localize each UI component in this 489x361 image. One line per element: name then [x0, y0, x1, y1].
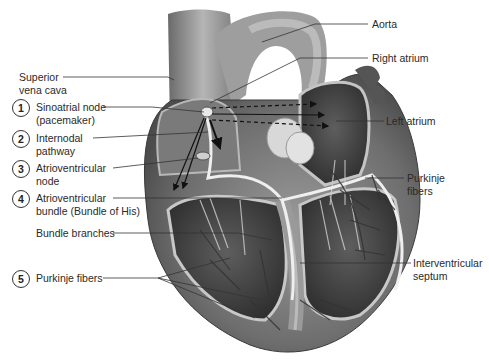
- heart-conduction-diagram: Superior vena cava 1 Sinoatrial node (pa…: [0, 0, 489, 361]
- label-line1: Atrioventricular: [36, 162, 106, 174]
- number-badge: 3: [12, 160, 30, 178]
- label-line1: Left atrium: [386, 115, 436, 127]
- label-line1: Superior: [19, 71, 59, 83]
- label-line1: Purkinje: [407, 172, 445, 184]
- number-badge: 4: [12, 190, 30, 208]
- label-line2: vena cava: [19, 84, 67, 96]
- label-line1: Interventricular: [413, 257, 482, 269]
- label-line2: (pacemaker): [36, 114, 95, 126]
- label-line1: Bundle branches: [36, 227, 115, 239]
- label-line2: fibers: [407, 185, 433, 197]
- label-line1: Purkinje fibers: [36, 272, 103, 284]
- label-line2: node: [36, 175, 59, 187]
- label-line1: Sinoatrial node: [36, 101, 106, 113]
- label-line2: pathway: [36, 145, 75, 157]
- number-badge: 2: [12, 130, 30, 148]
- number-badge: 1: [12, 99, 30, 117]
- atrioventricular-node-shape: [196, 152, 210, 160]
- label-line2: septum: [413, 270, 447, 282]
- label-line1: Atrioventricular: [36, 192, 106, 204]
- right-ventricle-chamber: [168, 196, 286, 320]
- label-line1: Aorta: [372, 18, 397, 30]
- label-line1: Right atrium: [372, 52, 429, 64]
- label-line1: Internodal: [36, 132, 83, 144]
- number-badge: 5: [12, 270, 30, 288]
- label-line2: bundle (Bundle of His): [36, 205, 140, 217]
